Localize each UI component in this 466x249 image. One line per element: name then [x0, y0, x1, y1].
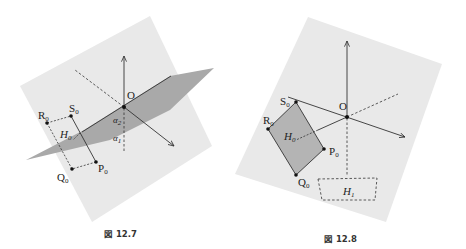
point-P0 [322, 147, 326, 151]
point-Q0 [70, 167, 74, 171]
figure-12-7: O R0 S0 P0 Q0 H0 α2 α1 図 12.7 [20, 16, 214, 239]
caption-fig-12-7: 図 12.7 [104, 229, 137, 239]
caption-fig-12-8: 図 12.8 [324, 234, 357, 244]
origin-point [122, 105, 126, 109]
label-origin: O [127, 89, 135, 101]
origin-point [345, 115, 349, 119]
label-origin: O [339, 100, 347, 112]
point-S0 [69, 114, 73, 118]
figure-12-8: O R0 S0 P0 Q0 H0 H1 図 12.8 [235, 17, 442, 244]
diagram-canvas: O R0 S0 P0 Q0 H0 α2 α1 図 12.7 O R0 S0 [0, 0, 466, 249]
point-R0 [266, 127, 270, 131]
point-S0 [294, 100, 298, 104]
